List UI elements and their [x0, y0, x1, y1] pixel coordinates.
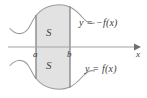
- axis-tick-label-a: a: [33, 50, 38, 59]
- curve-label-upper: y = −f(x): [79, 18, 118, 28]
- x-axis-label: x: [136, 50, 140, 59]
- region-label-lower-s: S: [46, 60, 52, 71]
- figure-container: S S a b x y = −f(x) y = f(x): [0, 0, 147, 98]
- curve-label-lower: y = f(x): [85, 64, 117, 74]
- region-label-upper-s: S: [46, 27, 52, 38]
- shaded-region-lower: [36, 47, 70, 89]
- axis-tick-label-b: b: [67, 50, 72, 59]
- area-between-curves-figure: [0, 0, 147, 98]
- shaded-region-upper: [36, 5, 70, 47]
